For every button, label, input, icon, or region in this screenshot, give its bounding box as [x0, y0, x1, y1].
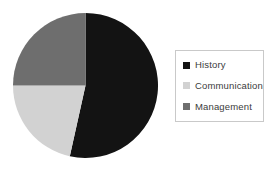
legend-swatch-icon: [183, 62, 190, 69]
pie-chart-plot-area: [13, 13, 158, 158]
pie-chart-figure: HistoryCommunicationManagement: [0, 0, 280, 169]
legend-item[interactable]: History: [183, 57, 263, 73]
legend-swatch-icon: [183, 103, 190, 110]
legend-item[interactable]: Communication: [183, 78, 263, 94]
legend-item-label: Management: [195, 102, 252, 112]
legend-item-list: HistoryCommunicationManagement: [176, 51, 263, 121]
legend-item-label: History: [195, 60, 226, 70]
legend-item-label: Communication: [195, 81, 263, 91]
legend-swatch-icon: [183, 82, 190, 89]
chart-legend: HistoryCommunicationManagement: [175, 50, 264, 122]
pie-chart-svg: [13, 13, 158, 158]
pie-slice-management: [13, 13, 86, 86]
pie-slice-group: [13, 13, 158, 158]
legend-item[interactable]: Management: [183, 99, 263, 115]
